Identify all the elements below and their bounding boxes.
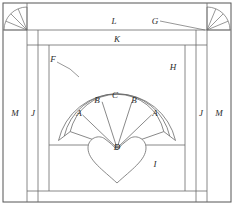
fan-arc-cap-left (59, 132, 71, 141)
corner-fan-right-rib-2 (207, 14, 223, 30)
label-M-left: M (10, 108, 19, 118)
quilt-block-diagram: L G K F H A B C B A D I M J J M (0, 0, 234, 205)
label-C: C (112, 90, 119, 100)
figure-canvas: L G K F H A B C B A D I M J J M (0, 0, 234, 205)
label-I: I (153, 159, 158, 169)
label-J-left: J (31, 108, 36, 118)
label-A-right: A (151, 108, 158, 118)
corner-fan-left-rib-2 (11, 14, 27, 30)
leader-g (160, 21, 205, 30)
leader-f (57, 62, 79, 77)
label-K: K (113, 34, 121, 44)
label-J-right: J (199, 108, 204, 118)
label-D: D (113, 142, 121, 152)
label-B-right: B (131, 95, 137, 105)
main-fan (59, 94, 176, 148)
label-H: H (169, 62, 177, 72)
fan-arc-cap-right (164, 132, 176, 141)
part-labels: L G K F H A B C B A D I M J J M (10, 16, 223, 169)
label-G: G (152, 16, 159, 26)
corner-fan-left (4, 7, 27, 30)
label-A-left: A (75, 108, 82, 118)
label-B-left: B (94, 95, 100, 105)
corner-fan-right (207, 7, 230, 30)
leader-lines (57, 21, 205, 77)
label-L: L (110, 16, 116, 26)
label-M-right: M (214, 108, 223, 118)
label-F: F (49, 54, 56, 64)
